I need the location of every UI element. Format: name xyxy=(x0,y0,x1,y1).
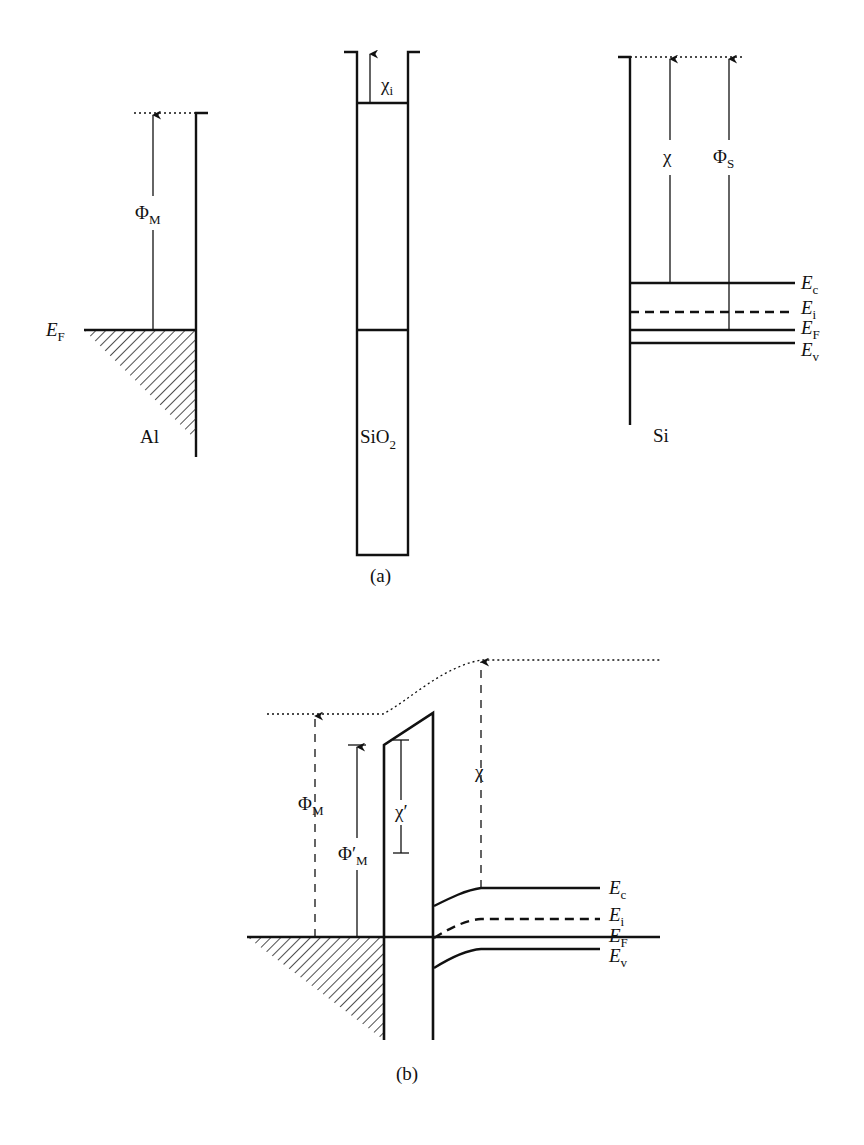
ev-b xyxy=(434,949,600,968)
metal-al xyxy=(84,113,208,457)
phi-m-prime-label: Φ′M xyxy=(338,843,368,868)
oxide-walls xyxy=(344,52,420,555)
panel-b xyxy=(247,660,660,1040)
sio2-label: SiO2 xyxy=(360,426,396,452)
metal-filled-states-b xyxy=(247,937,384,1040)
metal-surface-line xyxy=(196,113,208,457)
phi-m-label-b: ΦM xyxy=(298,793,324,818)
phi-m-label: ΦM xyxy=(135,202,161,227)
ec-label-b: Ec xyxy=(608,877,627,902)
metal-filled-states xyxy=(84,330,196,440)
oxide-sio2 xyxy=(344,52,420,555)
oxide-band-b xyxy=(384,713,433,1040)
si-ev-label: Ev xyxy=(800,339,820,364)
si-ec-label: Ec xyxy=(800,272,819,297)
ei-b xyxy=(434,919,600,938)
vacuum-level-b xyxy=(267,660,660,714)
semiconductor-si xyxy=(618,57,795,425)
ec-b xyxy=(434,888,600,906)
caption-a: (a) xyxy=(370,565,391,587)
caption-b: (b) xyxy=(396,1063,418,1085)
al-label: Al xyxy=(140,426,159,447)
chi-i-label: χi xyxy=(380,74,393,98)
metal-ef-label: EF xyxy=(45,319,65,344)
mos-band-diagram: ΦM EF Al χi SiO2 (a) χ ΦS Ec Ei xyxy=(0,0,864,1145)
chi-label: χ xyxy=(662,146,672,167)
si-surface-line xyxy=(618,57,630,425)
diagram-svg: ΦM EF Al χi SiO2 (a) χ ΦS Ec Ei xyxy=(0,0,864,1145)
chi-prime-label: χ′ xyxy=(394,801,408,822)
panel-a: ΦM EF Al χi SiO2 (a) χ ΦS Ec Ei xyxy=(45,52,820,587)
phi-s-label: ΦS xyxy=(713,146,734,171)
chi-label-b: χ xyxy=(474,761,484,782)
si-label: Si xyxy=(653,425,669,446)
